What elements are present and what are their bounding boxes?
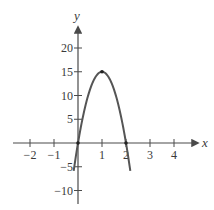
y-tick-label: 15: [61, 65, 73, 79]
y-tick-label: 20: [61, 41, 73, 55]
point-marker: [76, 141, 80, 145]
y-tick-label: −5: [60, 160, 73, 174]
x-tick-label: −1: [48, 148, 61, 162]
x-tick-label: 4: [171, 148, 177, 162]
x-axis-label: x: [201, 135, 208, 150]
x-tick-label: 1: [99, 148, 105, 162]
x-tick-label: −2: [24, 148, 37, 162]
point-marker: [124, 141, 128, 145]
point-marker: [100, 70, 104, 74]
key-points: [76, 70, 128, 145]
y-tick-label: 5: [67, 112, 73, 126]
parabola-chart: x y −2−11234 −10−55101520: [0, 0, 214, 210]
x-tick-label: 3: [147, 148, 153, 162]
y-axis-label: y: [72, 8, 80, 23]
y-tick-label: 10: [61, 89, 73, 103]
y-tick-label: −10: [54, 184, 73, 198]
